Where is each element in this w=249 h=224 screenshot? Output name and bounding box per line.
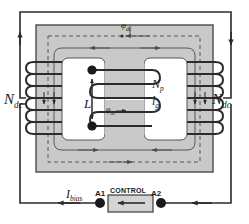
- label-ndc-right: Ndc: [212, 92, 231, 110]
- label-gap-length: lg: [152, 95, 159, 110]
- label-bias-current: Ibias: [66, 188, 82, 203]
- diagram-canvas: Ndc Ndc L Np lg φdc φac Ibias A1 A2 CONT…: [0, 0, 249, 224]
- terminal-a2-dot[interactable]: [156, 198, 166, 208]
- label-ndc-left: Ndc: [4, 92, 23, 110]
- flux-dc-origin-dot: [120, 34, 123, 37]
- terminal-dot-bottom: [87, 121, 96, 130]
- terminal-a1-dot[interactable]: [95, 198, 105, 208]
- label-primary-turns: Np: [152, 78, 164, 93]
- label-terminal-a2: A2: [151, 190, 161, 198]
- label-inductor: L: [84, 97, 91, 110]
- label-control-block: CONTROL: [110, 187, 146, 194]
- label-flux-dc: φdc: [121, 21, 131, 32]
- label-terminal-a1: A1: [95, 190, 105, 198]
- terminal-dot-top: [87, 65, 96, 74]
- label-flux-ac: φac: [106, 106, 115, 117]
